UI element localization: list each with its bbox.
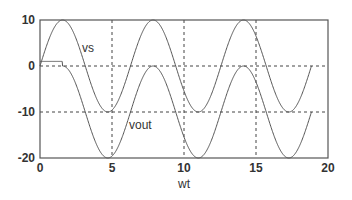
x-axis-label: wt: [177, 177, 191, 191]
y-tick-label: 10: [22, 13, 36, 27]
x-tick-labels: 05101520: [37, 161, 335, 175]
series: [40, 20, 311, 158]
x-tick-label: 20: [321, 161, 335, 175]
series-vout: [40, 61, 311, 158]
y-tick-label: -10: [18, 105, 36, 119]
y-tick-labels: 100-10-20: [18, 13, 36, 165]
annotation-vout: vout: [129, 118, 152, 132]
annotation-vs: vs: [82, 41, 94, 55]
chart: 100-10-20 05101520 wt vs vout: [0, 0, 352, 200]
y-tick-label: -20: [18, 151, 36, 165]
x-tick-label: 0: [37, 161, 44, 175]
x-tick-label: 5: [109, 161, 116, 175]
x-tick-label: 15: [249, 161, 263, 175]
y-tick-label: 0: [28, 59, 35, 73]
x-tick-label: 10: [177, 161, 191, 175]
